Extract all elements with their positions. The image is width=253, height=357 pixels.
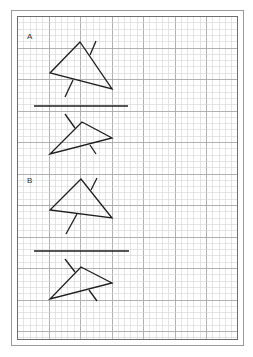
axis-tick-line xyxy=(65,259,75,272)
lower-triangle xyxy=(50,122,112,154)
axis-tick-line xyxy=(90,145,96,154)
upper-triangle xyxy=(50,179,112,218)
axis-tick-line xyxy=(90,41,96,55)
section-label-a: A xyxy=(27,33,32,41)
graph-paper-sheet xyxy=(0,0,253,357)
lower-triangle xyxy=(50,267,112,299)
axis-tick-line xyxy=(65,80,73,97)
section-label-b: B xyxy=(27,177,32,185)
section-b xyxy=(34,178,129,301)
figures xyxy=(34,41,129,301)
axis-tick-line xyxy=(91,178,97,190)
axis-tick-line xyxy=(89,290,97,301)
inner-border xyxy=(18,17,238,340)
grid-lines xyxy=(17,16,237,339)
upper-triangle xyxy=(50,42,112,89)
section-a xyxy=(34,41,128,154)
axis-tick-line xyxy=(65,114,75,128)
